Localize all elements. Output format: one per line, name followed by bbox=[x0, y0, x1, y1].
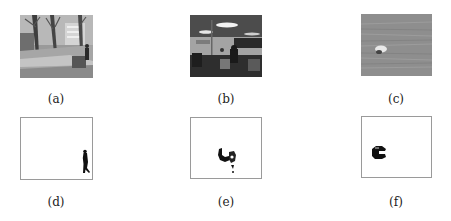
object-blob-mask bbox=[362, 117, 431, 177]
panel-d-mask bbox=[20, 117, 93, 180]
panel-f-mask bbox=[361, 116, 432, 178]
caption-a: (a) bbox=[36, 93, 76, 105]
outdoor-scene-image bbox=[20, 15, 93, 78]
panel-b-office-frame bbox=[190, 15, 262, 77]
office-scene-image bbox=[190, 15, 262, 77]
panel-e-mask bbox=[190, 117, 262, 179]
caption-c: (c) bbox=[376, 93, 416, 105]
person-blob-mask bbox=[191, 118, 261, 178]
water-scene-image bbox=[361, 14, 432, 76]
caption-d: (d) bbox=[36, 196, 76, 208]
caption-f: (f) bbox=[376, 196, 416, 208]
panel-c-water-frame bbox=[361, 14, 432, 76]
caption-e: (e) bbox=[206, 196, 246, 208]
caption-b: (b) bbox=[206, 93, 246, 105]
panel-a-outdoor-frame bbox=[20, 15, 93, 78]
person-silhouette-mask bbox=[21, 118, 92, 179]
